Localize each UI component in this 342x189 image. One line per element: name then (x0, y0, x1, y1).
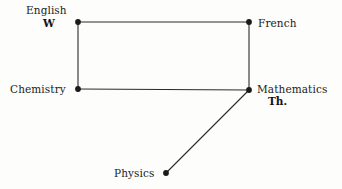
node-label-physics: Physics (114, 167, 154, 179)
node-label-mathematics: Mathematics (257, 83, 327, 95)
diagram-canvas: English W French Chemistry Mathematics T… (0, 0, 342, 189)
edge-layer (78, 22, 249, 173)
node-sublabel-mathematics: Th. (268, 95, 287, 107)
node-label-french: French (258, 17, 297, 29)
graph-node-french[interactable] (246, 19, 252, 25)
graph-edge-mathematics-chemistry (78, 89, 249, 90)
node-label-english: English (26, 4, 67, 16)
graph-node-english[interactable] (75, 19, 81, 25)
graph-node-chemistry[interactable] (75, 86, 81, 92)
node-sublabel-english: W (43, 17, 55, 29)
graph-node-physics[interactable] (163, 170, 169, 176)
graph-node-mathematics[interactable] (246, 87, 252, 93)
node-layer (75, 19, 252, 176)
graph-edge-mathematics-physics (166, 90, 249, 173)
node-label-chemistry: Chemistry (10, 83, 66, 95)
